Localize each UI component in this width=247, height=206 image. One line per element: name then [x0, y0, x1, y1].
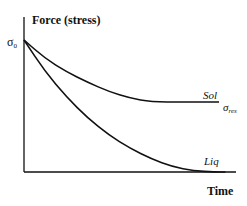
x-axis-label: Time [207, 184, 234, 198]
y-axis-label: Force (stress) [32, 13, 101, 27]
series-line-sol [24, 40, 219, 102]
chart: Force (stress) Time σ0 Sol σres Liq [0, 0, 247, 206]
series-label-liq: Liq [203, 155, 219, 167]
sigma-res-label: σres [223, 101, 237, 115]
sigma0-label: σ0 [7, 35, 17, 50]
series-line-liq [24, 40, 225, 172]
series-label-sol: Sol [203, 89, 217, 101]
